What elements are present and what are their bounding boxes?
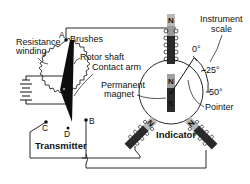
instrument-scale-label-2: scale: [211, 24, 232, 34]
terminal-d-label: D: [64, 129, 70, 139]
terminal-a: [64, 38, 68, 42]
scale-mark-50: 50°: [209, 87, 223, 97]
scale-mark-0: 0°: [192, 44, 201, 54]
rotor-shaft-label: Rotor shaft: [80, 52, 125, 62]
pointer-label: Pointer: [205, 102, 234, 112]
magnet-north-label: N: [168, 77, 174, 86]
wire-to-right-coil: [86, 150, 206, 168]
top-coil: N: [164, 14, 178, 64]
instrument-scale-arc: [195, 58, 208, 92]
terminal-b-label: B: [89, 116, 95, 126]
instrument-scale-label-1: Instrument: [200, 14, 243, 24]
contact-arm-label: Contact arm: [92, 62, 141, 72]
wire-to-left-coil: [135, 146, 140, 158]
top-coil-pole-label: N: [168, 16, 174, 25]
left-coil: N: [123, 115, 159, 151]
rotor-shaft-icon: [63, 88, 65, 90]
brushes-label: Brushes: [70, 34, 104, 44]
terminal-b: [84, 118, 88, 122]
scale-mark-25: 25°: [206, 65, 220, 75]
resistance-winding-label-2: winding: [15, 46, 47, 56]
terminal-c-label: C: [42, 123, 48, 133]
battery-icon: [20, 76, 32, 104]
magnet-south-label: S: [168, 99, 174, 108]
synchro-diagram: A B C D Transmitter Resistance winding B…: [0, 0, 250, 184]
indicator-title: Indicator: [156, 129, 196, 140]
permanent-magnet-label-2: magnet: [104, 89, 135, 99]
transmitter-title: Transmitter: [35, 140, 87, 151]
